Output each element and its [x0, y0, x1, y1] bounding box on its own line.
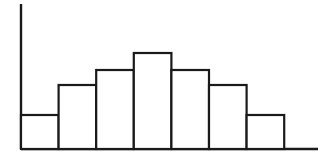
histogram-bar — [59, 85, 97, 149]
histogram-bar — [96, 70, 134, 149]
histogram-bar — [134, 53, 172, 149]
histogram-chart — [0, 0, 330, 160]
histogram-bar — [209, 85, 247, 149]
histogram-bar — [171, 70, 209, 149]
histogram-bar — [21, 115, 59, 149]
histogram-bar — [247, 115, 285, 149]
histogram-svg — [0, 0, 330, 160]
bars-group — [21, 53, 284, 149]
